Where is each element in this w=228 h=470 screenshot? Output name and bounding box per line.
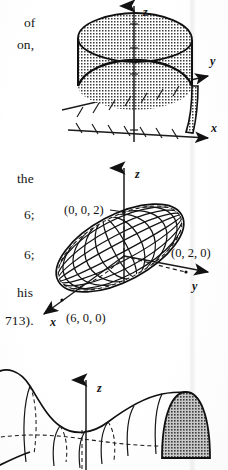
x-axis-label: x [210,121,217,135]
surface-rings [24,386,162,468]
margin-text-line: of [24,16,35,30]
y-axis-label: y [190,279,198,293]
figure-surface-of-revolution: z [0,330,228,470]
surface-outline [0,370,186,468]
margin-text-line: on, [17,38,34,52]
z-intercept-label: (0, 0, 2) [64,203,104,217]
margin-text-line: 713). [5,314,34,328]
y-intercept-label: (0, 2, 0) [171,246,211,260]
y-axis-label: y [208,54,216,68]
x-intercept-label: (6, 0, 0) [66,311,106,325]
margin-text-line: 6; [24,208,35,222]
x-axis-label: x [49,315,56,329]
margin-text-line: 6; [24,248,35,262]
z-axis-label: z [134,167,140,181]
end-cap-disk [162,392,210,458]
z-axis-label: z [96,381,102,395]
margin-text-line: his [17,286,33,300]
figure-ellipsoid: (0, 0, 2) (0, 2, 0) (6, 0, 0) z y x [0,150,228,330]
margin-text-line: the [17,172,34,186]
cylinder-solid [78,13,198,133]
z-axis-label: z [142,5,148,19]
